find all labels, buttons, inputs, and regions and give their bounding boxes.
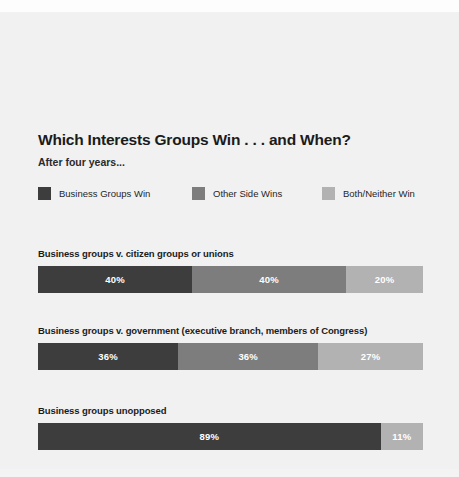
bar-segment: 11% xyxy=(381,423,423,450)
bar-segment: 27% xyxy=(318,343,423,370)
legend-label: Both/Neither Win xyxy=(343,188,415,199)
bar-segment: 40% xyxy=(192,266,346,293)
bar-segment: 40% xyxy=(38,266,192,293)
legend-swatch-icon xyxy=(322,187,335,200)
bar-track: 36%36%27% xyxy=(38,343,423,370)
bar-segment-value-label: 27% xyxy=(361,351,381,362)
legend-label: Other Side Wins xyxy=(213,188,282,199)
legend-item: Business Groups Win xyxy=(38,185,150,201)
legend-swatch-icon xyxy=(38,187,51,200)
bar-segment-value-label: 36% xyxy=(238,351,258,362)
bar-track: 89%11% xyxy=(38,423,423,450)
bar-segment: 89% xyxy=(38,423,381,450)
legend-item: Both/Neither Win xyxy=(322,185,415,201)
bar-track: 40%40%20% xyxy=(38,266,423,293)
bar-segment: 36% xyxy=(178,343,318,370)
bar-segment-value-label: 11% xyxy=(392,431,411,442)
bottom-margin-strip xyxy=(0,469,459,477)
bar-group: Business groups v. government (executive… xyxy=(38,325,423,370)
bar-segment-value-label: 40% xyxy=(259,274,279,285)
bar-group: Business groups v. citizen groups or uni… xyxy=(38,248,423,293)
top-margin-strip xyxy=(0,0,459,12)
legend-item: Other Side Wins xyxy=(192,185,282,201)
chart-canvas: Which Interests Groups Win . . . and Whe… xyxy=(0,0,459,477)
chart-subtitle: After four years... xyxy=(38,156,125,168)
bar-segment: 20% xyxy=(346,266,423,293)
chart-legend: Business Groups WinOther Side WinsBoth/N… xyxy=(38,185,438,201)
bar-segment-value-label: 89% xyxy=(200,431,220,442)
bar-group-caption: Business groups v. citizen groups or uni… xyxy=(38,248,423,259)
legend-label: Business Groups Win xyxy=(59,188,150,199)
legend-swatch-icon xyxy=(192,187,205,200)
bar-segment-value-label: 36% xyxy=(98,351,118,362)
bar-segment-value-label: 20% xyxy=(375,274,395,285)
bar-group-caption: Business groups unopposed xyxy=(38,405,423,416)
chart-title: Which Interests Groups Win . . . and Whe… xyxy=(38,131,351,149)
bar-segment: 36% xyxy=(38,343,178,370)
bar-group-caption: Business groups v. government (executive… xyxy=(38,325,423,336)
bar-group: Business groups unopposed89%11% xyxy=(38,405,423,450)
bar-segment-value-label: 40% xyxy=(105,274,125,285)
